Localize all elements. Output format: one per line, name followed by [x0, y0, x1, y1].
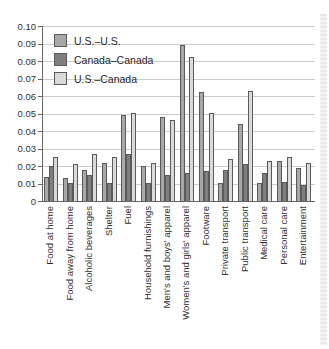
y-axis-label: 0.08 [4, 56, 36, 67]
x-axis-label: Men's and boys' apparel [160, 206, 173, 341]
bar [53, 157, 58, 201]
y-axis-label: 0.09 [4, 38, 36, 49]
x-axis-label: Public transport [238, 206, 251, 341]
bar-chart: 0.100.090.080.070.060.050.040.030.020.01… [0, 0, 329, 349]
bar [73, 164, 78, 201]
y-axis-tick [38, 201, 42, 202]
legend-swatch [54, 34, 67, 47]
y-axis-label: 0.03 [4, 143, 36, 154]
x-axis-label: Food away from home [63, 206, 76, 341]
x-axis-label: Alcoholic beverages [82, 206, 95, 341]
legend-item: U.S.–U.S. [54, 34, 153, 47]
bar [189, 57, 194, 201]
bar [287, 157, 292, 201]
x-axis-label: Food at home [43, 206, 56, 341]
bar [267, 161, 272, 201]
bar [209, 113, 214, 201]
legend-label: Canada–Canada [74, 54, 153, 66]
legend: U.S.–U.S.Canada–CanadaU.S.–Canada [54, 34, 153, 91]
y-axis-tick [38, 79, 42, 80]
bar [92, 154, 97, 201]
y-axis-tick [38, 96, 42, 97]
legend-swatch [54, 53, 67, 66]
x-axis-label: Women's and girls' apparel [179, 206, 192, 341]
x-axis-label: Personal care [277, 206, 290, 341]
y-axis-label: 0.04 [4, 126, 36, 137]
legend-label: U.S.–Canada [74, 73, 137, 85]
y-axis-label: 0.07 [4, 73, 36, 84]
bar [248, 91, 253, 201]
bar [228, 159, 233, 201]
y-axis-label: 0 [4, 196, 36, 207]
x-axis-label: Medical care [257, 206, 270, 341]
x-axis-label: Private transport [218, 206, 231, 341]
y-axis-label: 0.05 [4, 108, 36, 119]
bar [170, 120, 175, 201]
y-axis-label: 0.10 [4, 21, 36, 32]
y-axis-tick [38, 149, 42, 150]
y-axis-tick [38, 166, 42, 167]
x-axis-label: Shelter [102, 206, 115, 341]
y-axis-tick [38, 114, 42, 115]
legend-swatch [54, 72, 67, 85]
x-axis-label: Household furnishings [141, 206, 154, 341]
y-axis-tick [38, 26, 42, 27]
y-axis-label: 0.02 [4, 161, 36, 172]
bar [306, 163, 311, 201]
y-axis-tick [38, 131, 42, 132]
y-axis-label: 0.06 [4, 91, 36, 102]
legend-item: U.S.–Canada [54, 72, 153, 85]
gridline [43, 26, 315, 27]
bar [112, 157, 117, 201]
scan-edge-artifact [320, 14, 327, 346]
x-axis-label: Footware [199, 206, 212, 341]
y-axis-label: 0.01 [4, 178, 36, 189]
legend-label: U.S.–U.S. [74, 35, 121, 47]
y-axis-tick [38, 184, 42, 185]
legend-item: Canada–Canada [54, 53, 153, 66]
y-axis-tick [38, 44, 42, 45]
bar [131, 113, 136, 201]
x-axis-label: Fuel [121, 206, 134, 341]
x-axis-label: Entertainment [296, 206, 309, 341]
bar [151, 163, 156, 201]
y-axis-tick [38, 61, 42, 62]
